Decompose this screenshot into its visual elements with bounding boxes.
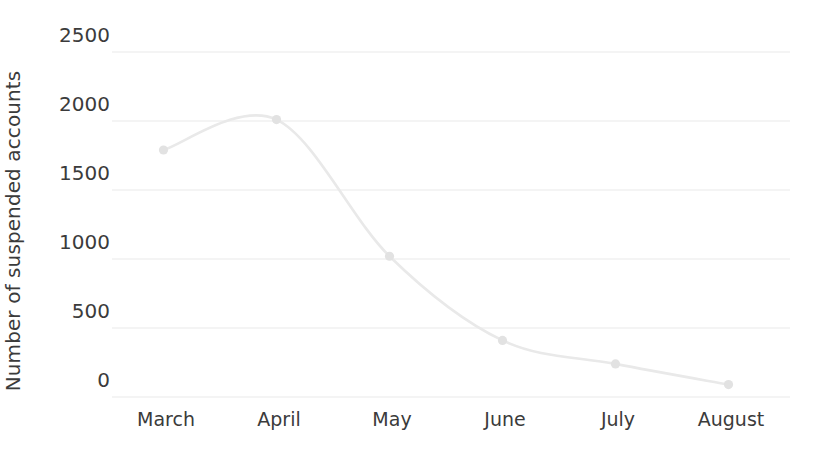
data-point-june [498, 336, 507, 345]
data-point-march [159, 145, 168, 154]
data-point-august [724, 380, 733, 389]
data-point-may [385, 252, 394, 261]
series-line-suspended-accounts [164, 115, 729, 384]
gridlines [112, 52, 790, 397]
data-point-july [611, 359, 620, 368]
plot-area [0, 0, 816, 462]
data-point-april [272, 115, 281, 124]
data-point-markers [159, 115, 733, 389]
line-chart: Number of suspended accounts 2500 2000 1… [0, 0, 816, 462]
